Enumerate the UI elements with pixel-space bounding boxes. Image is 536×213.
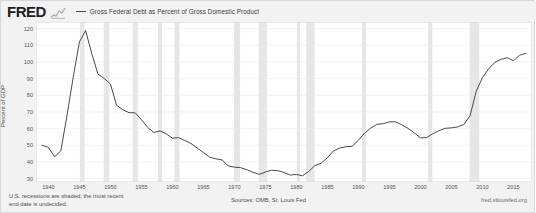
- recession-band: [133, 22, 138, 182]
- y-axis-tick-label: 100: [11, 59, 33, 65]
- recession-band: [104, 22, 110, 182]
- x-axis-tick-label: 1980: [284, 184, 308, 190]
- x-axis-tick-label: 1960: [160, 184, 184, 190]
- legend-line-swatch: [76, 11, 86, 12]
- recession-band: [174, 22, 179, 182]
- legend-series-label: Gross Federal Debt as Percent of Gross D…: [90, 8, 259, 15]
- y-axis-tick-label: 30: [11, 176, 33, 182]
- x-axis-tick-label: 2005: [439, 184, 463, 190]
- sources-label: Sources: OMB, St. Louis Fed: [1, 197, 536, 203]
- x-axis-tick-label: 1995: [377, 184, 401, 190]
- x-axis-tick-label: 2010: [470, 184, 494, 190]
- recession-band: [306, 22, 314, 182]
- x-axis-tick-label: 1975: [253, 184, 277, 190]
- x-axis-tick-label: 1990: [346, 184, 370, 190]
- legend: Gross Federal Debt as Percent of Gross D…: [76, 8, 259, 15]
- x-axis-tick-label: 2000: [408, 184, 432, 190]
- recession-band: [428, 22, 432, 182]
- y-axis-tick-label: 80: [11, 92, 33, 98]
- fred-logo: FRED: [7, 4, 46, 19]
- series-line: [42, 31, 526, 176]
- x-axis-tick-label: 1965: [191, 184, 215, 190]
- recession-band: [362, 22, 366, 182]
- x-axis-tick-label: 1970: [222, 184, 246, 190]
- chart-header: FRED Gross Federal Debt as Percent of Gr…: [1, 1, 536, 21]
- x-axis-tick-label: 1985: [315, 184, 339, 190]
- x-axis-tick-label: 2015: [501, 184, 525, 190]
- y-axis-tick-label: 60: [11, 126, 33, 132]
- plot-border: [36, 22, 531, 181]
- y-axis-tick-label: 50: [11, 142, 33, 148]
- series-line-chart: [36, 22, 532, 182]
- y-axis-tick-label: 110: [11, 42, 33, 48]
- y-axis-tick-label: 90: [11, 76, 33, 82]
- recession-band: [80, 22, 85, 182]
- x-axis-tick-label: 1945: [67, 184, 91, 190]
- x-axis-tick-label: 1950: [98, 184, 122, 190]
- recession-band: [259, 22, 267, 182]
- spark-line-icon: [50, 5, 66, 17]
- plot-area: [36, 22, 532, 182]
- x-axis-tick-label: 1955: [129, 184, 153, 190]
- recession-band: [297, 22, 300, 182]
- y-axis-title-text: Percent of GDP: [0, 46, 6, 166]
- recession-band: [158, 22, 162, 182]
- recession-band: [470, 22, 480, 182]
- y-axis-tick-label: 40: [11, 159, 33, 165]
- y-axis-tick-label: 70: [11, 109, 33, 115]
- recession-band: [234, 22, 240, 182]
- fred-attribution-link[interactable]: fred.stlouisfed.org: [481, 197, 527, 203]
- x-axis-tick-label: 1940: [36, 184, 60, 190]
- y-axis-tick-label: 120: [11, 26, 33, 32]
